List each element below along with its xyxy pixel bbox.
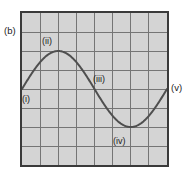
plot-area [20,11,169,167]
annotation-label-i: (i) [22,95,30,104]
annotation-label-v: (v) [171,83,182,93]
wave-path [22,51,167,127]
annotation-label-iv: (iv) [113,137,126,146]
annotation-label-iii: (iii) [93,75,105,84]
panel-label-b: (b) [4,26,16,36]
annotation-label-ii: (ii) [42,37,52,46]
figure-panel-b: (b) (i) (ii) (ii [0,0,190,180]
